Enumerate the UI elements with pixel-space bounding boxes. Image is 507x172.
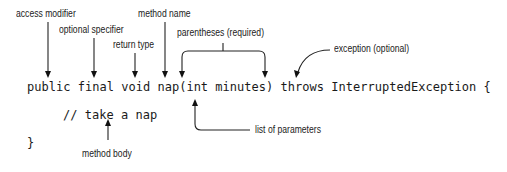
exception-label: exception (optional)	[334, 43, 409, 54]
list-of-parameters-label: list of parameters	[255, 124, 321, 135]
method-name-label: method name	[138, 8, 191, 19]
exception-arrow	[298, 50, 330, 72]
method-body-comment: // take a nap	[63, 108, 157, 122]
method-body-label: method body	[82, 148, 132, 159]
parentheses-label: parentheses (required)	[177, 27, 264, 38]
parentheses-bracket	[182, 43, 265, 73]
optional-specifier-label: optional specifier	[59, 24, 124, 35]
return-type-label: return type	[113, 39, 154, 50]
method-signature-code: public final void nap(int minutes) throw…	[27, 80, 491, 94]
method-anatomy-diagram: access modifier optional specifier retur…	[0, 0, 507, 172]
access-modifier-label: access modifier	[16, 8, 76, 19]
list-of-parameters-arrow	[195, 104, 250, 130]
closing-brace: }	[27, 136, 34, 150]
